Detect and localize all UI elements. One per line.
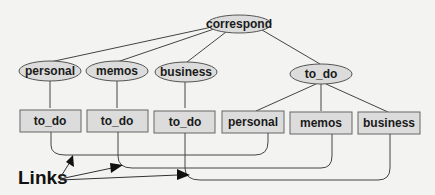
box-to-do-3-label: to_do bbox=[169, 115, 202, 129]
box-personal-label: personal bbox=[228, 115, 278, 129]
links-annotation: Links bbox=[18, 155, 190, 188]
node-business-dir: business bbox=[155, 62, 217, 82]
directory-link-diagram: correspond personal memos business to_do… bbox=[0, 0, 435, 195]
box-business: business bbox=[358, 112, 420, 134]
node-memos-dir: memos bbox=[86, 61, 148, 81]
box-personal: personal bbox=[222, 111, 284, 133]
node-correspond-label: correspond bbox=[206, 17, 272, 31]
node-memos-label: memos bbox=[96, 64, 138, 78]
node-personal-label: personal bbox=[25, 64, 75, 78]
box-to-do-1-label: to_do bbox=[34, 114, 67, 128]
node-personal-dir: personal bbox=[19, 61, 81, 81]
node-business-label: business bbox=[160, 65, 212, 79]
box-to-do-3: to_do bbox=[154, 111, 215, 133]
box-to-do-2: to_do bbox=[87, 110, 148, 132]
link-curves bbox=[51, 132, 390, 180]
box-business-label: business bbox=[363, 116, 415, 130]
node-to-do-dir: to_do bbox=[290, 64, 352, 84]
box-to-do-1: to_do bbox=[20, 110, 81, 132]
node-to-do-label: to_do bbox=[305, 67, 338, 81]
arrow-head-3 bbox=[177, 169, 190, 180]
box-memos: memos bbox=[290, 112, 352, 134]
box-memos-label: memos bbox=[300, 116, 342, 130]
arrow-head-1 bbox=[66, 155, 74, 167]
box-to-do-2-label: to_do bbox=[101, 114, 134, 128]
node-correspond: correspond bbox=[206, 15, 272, 33]
